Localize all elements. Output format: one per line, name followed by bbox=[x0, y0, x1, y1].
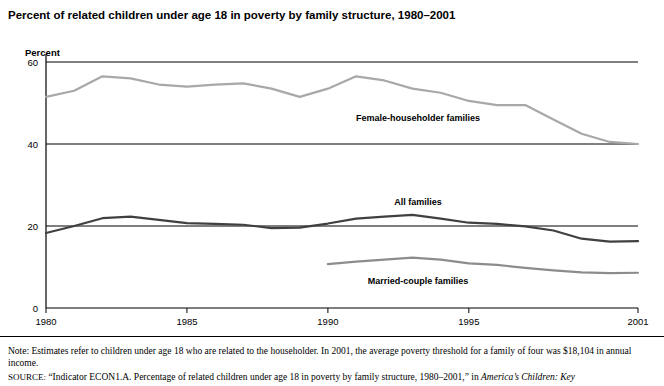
x-tick-label-1990: 1990 bbox=[317, 316, 338, 327]
x-tick-label-2001: 2001 bbox=[627, 316, 648, 327]
chart-area: Percent 020406019801985199019952001Femal… bbox=[0, 38, 664, 330]
chart-note: Note: Estimates refer to children under … bbox=[8, 345, 656, 369]
source-italic: America’s Children: Key bbox=[481, 372, 575, 382]
chart-source: SOURCE: “Indicator ECON1.A. Percentage o… bbox=[8, 371, 656, 383]
y-tick-label-0: 0 bbox=[33, 303, 38, 314]
y-tick-label-40: 40 bbox=[27, 139, 38, 150]
y-tick-label-60: 60 bbox=[27, 57, 38, 68]
page-title: Percent of related children under age 18… bbox=[8, 8, 648, 22]
chart-page: Percent of related children under age 18… bbox=[0, 0, 664, 386]
x-tick-label-1995: 1995 bbox=[458, 316, 479, 327]
y-tick-label-20: 20 bbox=[27, 221, 38, 232]
series-label-1: All families bbox=[394, 197, 442, 207]
series-line-1 bbox=[46, 215, 638, 242]
series-line-0 bbox=[46, 76, 638, 144]
source-text: “Indicator ECON1.A. Percentage of relate… bbox=[48, 372, 481, 382]
series-label-2: Married-couple families bbox=[368, 276, 469, 286]
divider bbox=[0, 336, 664, 337]
x-tick-label-1985: 1985 bbox=[176, 316, 197, 327]
series-label-0: Female-householder families bbox=[356, 113, 480, 123]
series-line-2 bbox=[328, 258, 638, 274]
poverty-line-chart: 020406019801985199019952001Female-househ… bbox=[0, 38, 664, 330]
source-prefix: SOURCE: bbox=[8, 372, 46, 382]
x-tick-label-1980: 1980 bbox=[35, 316, 56, 327]
